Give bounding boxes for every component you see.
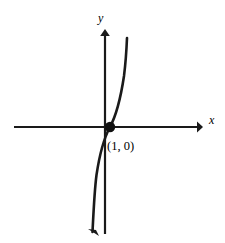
x-axis-arrowhead-icon (197, 122, 203, 133)
function-curve (93, 38, 128, 232)
x-axis-label: x (209, 114, 214, 126)
function-graph-figure: y x (1, 0) (0, 0, 225, 243)
point-coordinate-label: (1, 0) (107, 140, 134, 153)
y-axis-arrowhead-icon (100, 29, 110, 36)
point-marker-dot (105, 122, 115, 132)
y-axis-label: y (98, 12, 103, 24)
plot-canvas (0, 0, 225, 243)
